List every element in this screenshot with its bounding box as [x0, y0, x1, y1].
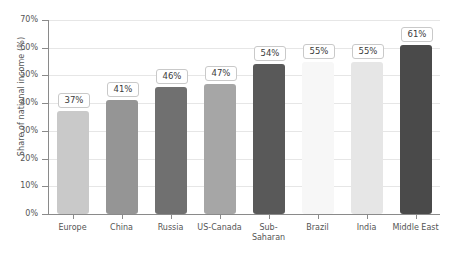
- bar: [302, 62, 334, 214]
- bar-value-label: 47%: [205, 66, 237, 81]
- bar: [155, 87, 187, 214]
- bar: [351, 62, 383, 214]
- x-axis-tick-label: Russia: [146, 223, 195, 233]
- x-axis-tick: [367, 215, 368, 219]
- x-axis-tick-label: US-Canada: [195, 223, 244, 233]
- x-axis-tick: [269, 215, 270, 219]
- y-axis-line: [48, 20, 49, 215]
- y-axis-tick-label: 70%: [0, 15, 38, 24]
- bar-value-label: 46%: [156, 69, 188, 84]
- x-axis-line: [48, 214, 440, 215]
- y-axis-tick-label: 10%: [0, 181, 38, 190]
- x-axis-tick-label: Europe: [48, 223, 97, 233]
- bar-value-label: 37%: [58, 93, 90, 108]
- y-axis-tick-label: 30%: [0, 126, 38, 135]
- bar: [204, 84, 236, 214]
- x-axis-tick: [171, 215, 172, 219]
- y-axis-tick-label: 60%: [0, 43, 38, 52]
- x-axis-tick: [416, 215, 417, 219]
- bar: [253, 64, 285, 214]
- bar: [400, 45, 432, 214]
- bar-value-label: 41%: [107, 82, 139, 97]
- x-axis-tick: [220, 215, 221, 219]
- bar-value-label: 55%: [352, 44, 384, 59]
- bar: [57, 111, 89, 214]
- x-axis-tick-label: Sub- Saharan: [244, 223, 293, 243]
- x-axis-tick-label: China: [97, 223, 146, 233]
- y-axis-tick-label: 40%: [0, 98, 38, 107]
- x-axis-tick-label: Middle East: [391, 223, 440, 233]
- bar-value-label: 55%: [303, 44, 335, 59]
- y-axis-tick-label: 50%: [0, 70, 38, 79]
- y-axis-tick-label: 20%: [0, 154, 38, 163]
- y-axis-tick-label: 0%: [0, 209, 38, 218]
- bar-chart: Share of national income (%) 0%10%20%30%…: [0, 0, 452, 263]
- bar-value-label: 61%: [401, 27, 433, 42]
- bar-value-label: 54%: [254, 46, 286, 61]
- gridline: [48, 20, 440, 21]
- x-axis-tick: [122, 215, 123, 219]
- x-axis-tick-label: Brazil: [293, 223, 342, 233]
- x-axis-tick: [318, 215, 319, 219]
- y-axis-title: Share of national income (%): [17, 2, 26, 192]
- x-axis-tick: [73, 215, 74, 219]
- bar: [106, 100, 138, 214]
- x-axis-tick-label: India: [342, 223, 391, 233]
